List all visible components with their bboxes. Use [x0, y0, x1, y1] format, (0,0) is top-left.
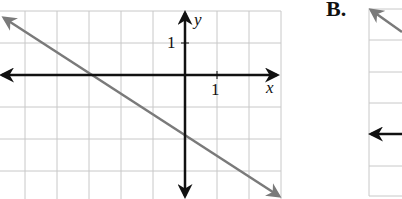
grid-b [369, 9, 402, 196]
figure-label-b: B. [326, 0, 346, 22]
x-axis-label: x [265, 78, 274, 97]
x-tick-label: 1 [211, 80, 220, 99]
graph-a: 1 1 y x [0, 0, 402, 199]
y-axis-label: y [192, 10, 202, 29]
plotted-line-b [371, 10, 402, 32]
y-tick-label: 1 [167, 33, 176, 52]
